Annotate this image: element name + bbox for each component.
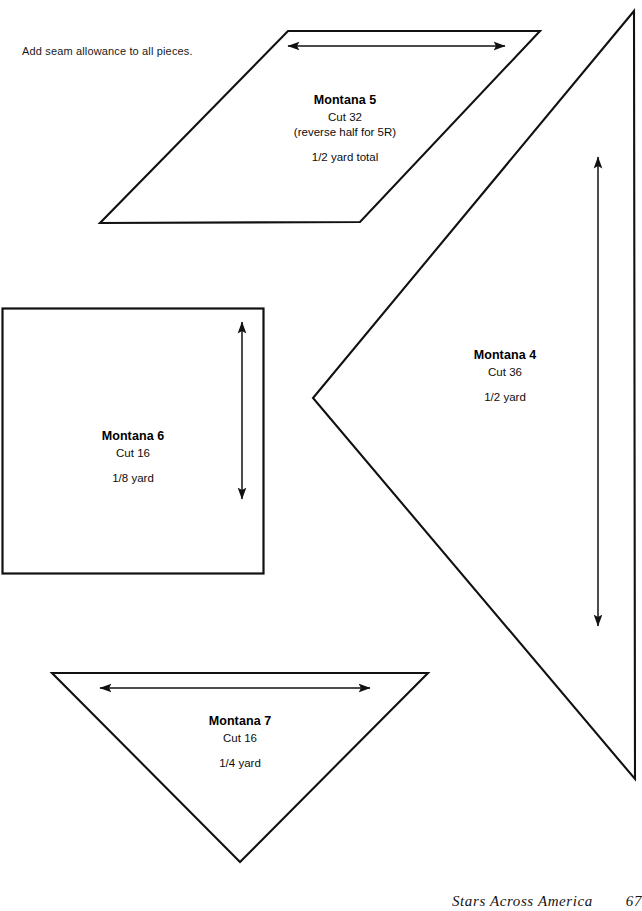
piece-name-montana-5: Montana 5 — [294, 93, 396, 109]
piece-cut-montana-5: Cut 32 — [294, 110, 396, 124]
piece-label-montana-6: Montana 6 Cut 16 1/8 yard — [102, 429, 165, 485]
footer-credit: Stars Across America 67 — [452, 893, 642, 911]
piece-label-montana-7: Montana 7 Cut 16 1/4 yard — [209, 714, 272, 770]
piece-note-montana-5: (reverse half for 5R) — [294, 125, 396, 139]
piece-name-montana-7: Montana 7 — [209, 714, 272, 730]
piece-yardage-montana-6: 1/8 yard — [102, 471, 165, 485]
piece-label-montana-5: Montana 5 Cut 32 (reverse half for 5R) 1… — [294, 93, 396, 165]
piece-yardage-montana-4: 1/2 yard — [474, 390, 537, 404]
piece-name-montana-6: Montana 6 — [102, 429, 165, 445]
piece-cut-montana-7: Cut 16 — [209, 731, 272, 745]
piece-yardage-montana-7: 1/4 yard — [209, 756, 272, 770]
footer-credit-text: Stars Across America — [452, 893, 593, 909]
seam-allowance-note: Add seam allowance to all pieces. — [22, 45, 193, 59]
piece-name-montana-4: Montana 4 — [474, 348, 537, 364]
pattern-sheet: Add seam allowance to all pieces. Montan… — [0, 0, 642, 911]
piece-cut-montana-4: Cut 36 — [474, 365, 537, 379]
footer-page-number: 67 — [626, 893, 642, 910]
piece-label-montana-4: Montana 4 Cut 36 1/2 yard — [474, 348, 537, 404]
piece-cut-montana-6: Cut 16 — [102, 446, 165, 460]
piece-yardage-montana-5: 1/2 yard total — [294, 150, 396, 164]
